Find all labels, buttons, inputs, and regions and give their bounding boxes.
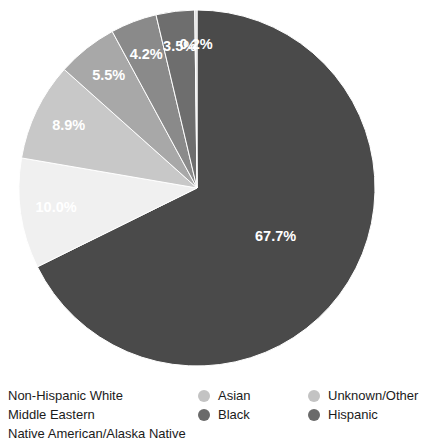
legend-color-swatch-icon (198, 390, 210, 402)
legend-entry[interactable]: Unknown/Other (308, 386, 418, 405)
legend-color-swatch-icon (308, 390, 320, 402)
pie-slice-label: 0.2% (180, 36, 213, 52)
legend-label: Black (218, 405, 250, 424)
legend-label: Hispanic (328, 405, 378, 424)
legend-label: Unknown/Other (328, 386, 418, 405)
pie-slice-label: 67.7% (255, 228, 296, 244)
legend-label: Non-Hispanic White (8, 386, 123, 405)
legend-entry[interactable]: Non-Hispanic White (0, 386, 186, 405)
legend-entry[interactable]: Native American/Alaska Native (0, 424, 186, 443)
chart-legend: Non-Hispanic WhiteMiddle EasternNative A… (0, 386, 443, 443)
pie-slice-label: 4.2% (130, 46, 163, 62)
pie-slice-label: 10.0% (36, 199, 77, 215)
pie-chart-svg: 67.7%10.0%8.9%5.5%4.2%3.5%0.2% (0, 0, 443, 380)
pie-chart-figure: 67.7%10.0%8.9%5.5%4.2%3.5%0.2% (0, 0, 443, 380)
legend-entry[interactable]: Hispanic (308, 405, 418, 424)
legend-column-2: AsianBlack (198, 386, 251, 424)
pie-slice-group (19, 10, 375, 366)
legend-label: Middle Eastern (8, 405, 95, 424)
legend-column-1: Non-Hispanic WhiteMiddle EasternNative A… (0, 386, 186, 443)
legend-column-3: Unknown/OtherHispanic (308, 386, 418, 424)
legend-label: Native American/Alaska Native (8, 424, 186, 443)
legend-entry[interactable]: Middle Eastern (0, 405, 186, 424)
pie-slice-label: 8.9% (52, 117, 85, 133)
legend-color-swatch-icon (308, 409, 320, 421)
legend-entry[interactable]: Black (198, 405, 251, 424)
legend-entry[interactable]: Asian (198, 386, 251, 405)
legend-color-swatch-icon (198, 409, 210, 421)
legend-label: Asian (218, 386, 251, 405)
pie-slice-label: 5.5% (92, 67, 125, 83)
